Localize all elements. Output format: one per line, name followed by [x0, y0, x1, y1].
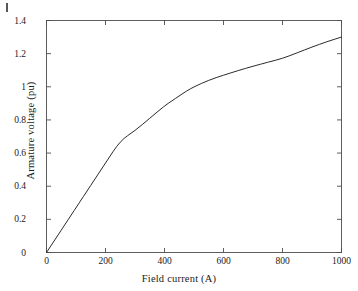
x-axis-ticks: [47, 21, 342, 253]
x-tick-label: 200: [98, 256, 112, 266]
x-tick-label: 400: [157, 256, 171, 266]
scan-mark-icon: [6, 3, 8, 12]
axes-box: [47, 21, 342, 253]
data-series-group: [47, 37, 342, 252]
series-line-0: [47, 37, 342, 252]
y-tick-label: 1.4: [14, 16, 26, 26]
x-tick-label: 0: [44, 256, 49, 266]
x-tick-label: 1000: [332, 256, 351, 266]
chart-figure: 02004006008001000 00.20.40.60.811.21.4 F…: [0, 0, 358, 291]
plot-canvas: [0, 0, 358, 291]
x-tick-label: 800: [275, 256, 289, 266]
y-tick-label: 0: [21, 248, 26, 258]
x-axis-title: Field current (A): [0, 273, 358, 284]
y-axis-ticks: [47, 21, 342, 253]
y-axis-title: Armature voltage (pu): [25, 41, 36, 221]
x-tick-label: 600: [216, 256, 230, 266]
